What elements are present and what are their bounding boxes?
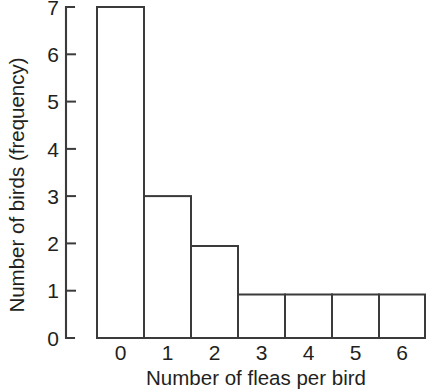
x-tick-label-3: 3 <box>256 341 268 364</box>
y-axis <box>66 7 76 338</box>
y-tick-label-6: 6 <box>47 43 59 66</box>
y-tick-label-1: 1 <box>47 279 59 302</box>
y-axis-spine <box>66 7 74 338</box>
bar-5 <box>332 295 379 339</box>
histogram-chart: 7 6 5 4 3 2 1 0 <box>0 0 431 391</box>
bar-6 <box>379 295 425 339</box>
x-tick-label-6: 6 <box>396 341 408 364</box>
bar-3 <box>238 295 285 339</box>
x-tick-label-2: 2 <box>209 341 221 364</box>
x-tick-label-1: 1 <box>162 341 174 364</box>
x-tick-labels: 0 1 2 3 4 5 6 <box>115 341 408 364</box>
y-tick-label-7: 7 <box>47 0 59 19</box>
bars-group <box>97 7 425 338</box>
y-tick-label-2: 2 <box>47 232 59 255</box>
y-tick-label-5: 5 <box>47 90 59 113</box>
x-tick-label-4: 4 <box>303 341 315 364</box>
y-axis-ticks <box>66 54 76 290</box>
bar-4 <box>285 295 332 339</box>
bar-0 <box>97 7 144 338</box>
bar-1 <box>144 196 191 338</box>
y-tick-labels: 7 6 5 4 3 2 1 0 <box>47 0 59 350</box>
x-tick-label-0: 0 <box>115 341 127 364</box>
y-tick-label-3: 3 <box>47 185 59 208</box>
y-tick-label-0: 0 <box>47 327 59 350</box>
y-axis-title: Number of birds (frequency) <box>5 57 28 312</box>
x-axis-title: Number of fleas per bird <box>146 366 366 389</box>
x-tick-label-5: 5 <box>350 341 362 364</box>
bar-2 <box>191 246 238 338</box>
chart-canvas: 7 6 5 4 3 2 1 0 <box>0 0 431 391</box>
y-tick-label-4: 4 <box>47 138 59 161</box>
